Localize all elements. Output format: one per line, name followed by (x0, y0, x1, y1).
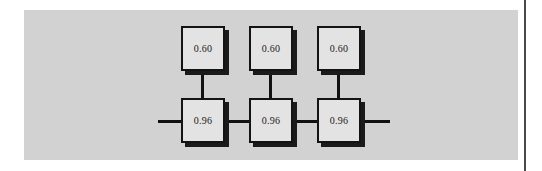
parallel-connector-3 (337, 68, 340, 100)
block-bottom-3-label: 0.96 (330, 116, 348, 126)
block-top-3-label: 0.60 (330, 44, 348, 54)
interstage-wire-2-3 (292, 120, 320, 123)
block-bottom-2-label: 0.96 (262, 116, 280, 126)
block-top-2-label: 0.60 (262, 44, 280, 54)
block-bottom-1[interactable]: 0.96 (181, 98, 225, 143)
page-vertical-rule (524, 0, 526, 171)
interstage-wire-1-2 (224, 120, 252, 123)
input-lead-wire (158, 120, 182, 123)
reliability-block-diagram: 0.60 0.60 0.60 0.96 0.96 0.96 (24, 10, 518, 160)
block-top-3[interactable]: 0.60 (317, 26, 361, 71)
parallel-connector-1 (201, 68, 204, 100)
block-top-2[interactable]: 0.60 (249, 26, 293, 71)
block-bottom-2[interactable]: 0.96 (249, 98, 293, 143)
figure-panel: 0.60 0.60 0.60 0.96 0.96 0.96 (24, 10, 518, 160)
block-bottom-3[interactable]: 0.96 (317, 98, 361, 143)
figure-canvas: 0.60 0.60 0.60 0.96 0.96 0.96 (0, 0, 542, 171)
block-top-1[interactable]: 0.60 (181, 26, 225, 71)
parallel-connector-2 (269, 68, 272, 100)
block-top-1-label: 0.60 (194, 44, 212, 54)
block-bottom-1-label: 0.96 (194, 116, 212, 126)
output-lead-wire (360, 120, 390, 123)
